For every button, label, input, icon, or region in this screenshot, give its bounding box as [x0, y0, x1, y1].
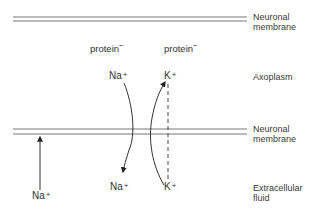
k-axoplasm-label: K+ [164, 71, 176, 81]
ion-symbol: Na [110, 181, 123, 192]
protein-label-right: protein− [164, 44, 198, 54]
ion-symbol: K [164, 70, 171, 81]
ion-charge: + [46, 190, 51, 199]
ion-symbol: Na [32, 190, 45, 201]
protein-text: protein [164, 43, 193, 54]
protein-charge: − [193, 41, 198, 50]
top-membrane-label: Neuronal membrane [253, 12, 296, 32]
bottom-membrane-label-line1: Neuronal [253, 124, 296, 134]
protein-label-left: protein− [90, 44, 124, 54]
top-membrane-label-line2: membrane [253, 22, 296, 32]
protein-text: protein [90, 43, 119, 54]
ion-symbol: Na [109, 70, 122, 81]
extracellular-label: Extracellular fluid [253, 183, 303, 203]
na-extracellular-label: Na+ [110, 182, 128, 192]
bottom-membrane-label: Neuronal membrane [253, 124, 296, 144]
extracellular-label-line2: fluid [253, 193, 303, 203]
k-extracellular-label: K+ [164, 182, 176, 192]
ion-charge: + [124, 181, 129, 190]
axoplasm-label: Axoplasm [253, 72, 293, 82]
ion-charge: + [123, 70, 128, 79]
extracellular-label-line1: Extracellular [253, 183, 303, 193]
top-membrane-lines [13, 17, 247, 21]
protein-charge: − [119, 41, 124, 50]
na-axoplasm-label: Na+ [109, 71, 127, 81]
ion-charge: + [172, 181, 177, 190]
bottom-membrane-lines [13, 129, 247, 134]
na-curved-arrow [123, 83, 133, 172]
bottom-membrane-label-line2: membrane [253, 134, 296, 144]
ion-charge: + [172, 70, 177, 79]
ion-symbol: K [164, 181, 171, 192]
top-membrane-label-line1: Neuronal [253, 12, 296, 22]
na-extracellular-left-label: Na+ [32, 191, 50, 201]
